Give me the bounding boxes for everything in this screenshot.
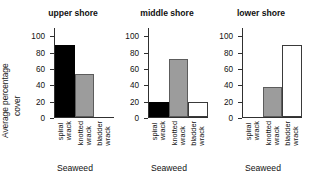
y-tick-label-60: 60 — [36, 64, 45, 73]
panel-title: upper shore — [26, 8, 120, 18]
bar-slot-spiral-wrack — [149, 28, 169, 117]
y-tick-60: 60 — [238, 69, 242, 70]
x-category-labels: spiral wrack knotted wrack bladder wrack — [149, 119, 208, 159]
x-category-line-2: wrack — [65, 121, 73, 140]
y-tick-label-20: 20 — [224, 97, 233, 106]
x-category-line-2: wrack — [253, 121, 261, 140]
x-category-line-2: wrack — [85, 121, 93, 145]
x-category-bladder-wrack: bladder wrack — [282, 119, 302, 159]
y-tick-20: 20 — [238, 102, 242, 103]
bar-group — [149, 28, 208, 117]
bar-slot-spiral-wrack — [55, 28, 75, 117]
y-tick-label-100: 100 — [125, 32, 139, 41]
y-tick-40: 40 — [238, 85, 242, 86]
bar-slot-knotted-wrack — [263, 28, 283, 117]
y-tick-label-0: 0 — [228, 114, 233, 123]
y-tick-label-0: 0 — [134, 114, 139, 123]
plot-area: 100 80 60 40 20 0 — [242, 28, 302, 118]
y-tick-label-40: 40 — [224, 81, 233, 90]
bar-slot-knotted-wrack — [75, 28, 95, 117]
y-tick-60: 60 — [50, 69, 54, 70]
y-tick-100: 100 — [238, 36, 242, 37]
x-category-labels: spiral wrack knotted wrack bladder wrack — [243, 119, 302, 159]
y-tick-label-80: 80 — [130, 48, 139, 57]
x-category-knotted-wrack: knotted wrack — [75, 119, 95, 159]
y-tick-label-60: 60 — [224, 64, 233, 73]
bar-slot-knotted-wrack — [169, 28, 189, 117]
y-tick-label-20: 20 — [36, 97, 45, 106]
x-category-line-2: wrack — [159, 121, 167, 140]
x-category-spiral-wrack: spiral wrack — [55, 119, 75, 159]
y-tick-label-100: 100 — [31, 32, 45, 41]
y-tick-100: 100 — [50, 36, 54, 37]
y-tick-40: 40 — [144, 85, 148, 86]
bar-spiral-wrack — [55, 45, 75, 116]
x-category-line-2: wrack — [104, 121, 112, 146]
bar-slot-spiral-wrack — [243, 28, 263, 117]
y-tick-60: 60 — [144, 69, 148, 70]
y-tick-label-100: 100 — [219, 32, 233, 41]
x-category-line-2: wrack — [179, 121, 187, 145]
panel-middle-shore: middle shore 100 80 60 40 20 0 — [120, 0, 214, 186]
x-axis-line — [242, 117, 302, 118]
y-tick-label-60: 60 — [130, 64, 139, 73]
bar-bladder-wrack — [282, 45, 302, 117]
x-category-spiral-wrack: spiral wrack — [243, 119, 263, 159]
x-category-labels: spiral wrack knotted wrack bladder wrack — [55, 119, 114, 159]
x-category-knotted-wrack: knotted wrack — [169, 119, 189, 159]
bar-slot-bladder-wrack — [282, 28, 302, 117]
panel-title: lower shore — [214, 8, 308, 18]
x-category-line-2: wrack — [273, 121, 281, 145]
bar-slot-bladder-wrack — [94, 28, 114, 117]
y-tick-20: 20 — [144, 102, 148, 103]
y-tick-20: 20 — [50, 102, 54, 103]
bar-group — [243, 28, 302, 117]
x-axis-label: Seaweed — [130, 163, 208, 173]
y-tick-0: 0 — [50, 118, 54, 119]
x-category-bladder-wrack: bladder wrack — [188, 119, 208, 159]
y-tick-80: 80 — [144, 53, 148, 54]
y-tick-80: 80 — [238, 53, 242, 54]
y-tick-100: 100 — [144, 36, 148, 37]
y-tick-80: 80 — [50, 53, 54, 54]
y-tick-label-40: 40 — [130, 81, 139, 90]
panel-lower-shore: lower shore 100 80 60 40 20 0 — [214, 0, 308, 186]
y-axis-label-line-2: cover — [12, 96, 22, 116]
bar-knotted-wrack — [263, 87, 283, 116]
y-tick-40: 40 — [50, 85, 54, 86]
plot-area: 100 80 60 40 20 0 — [148, 28, 208, 118]
plot-area: 100 80 60 40 20 0 — [54, 28, 114, 118]
bar-bladder-wrack — [188, 102, 208, 117]
bar-knotted-wrack — [169, 59, 189, 117]
x-category-line-2: wrack — [292, 121, 300, 146]
panel-title: middle shore — [120, 8, 214, 18]
y-tick-0: 0 — [144, 118, 148, 119]
x-axis-line — [148, 117, 208, 118]
figure: Average percentage cover upper shore 100… — [0, 0, 312, 186]
x-category-knotted-wrack: knotted wrack — [263, 119, 283, 159]
x-category-bladder-wrack: bladder wrack — [94, 119, 114, 159]
y-tick-label-80: 80 — [36, 48, 45, 57]
y-axis-label-line-1: Average percentage — [0, 63, 10, 138]
y-tick-label-0: 0 — [40, 114, 45, 123]
y-tick-label-40: 40 — [36, 81, 45, 90]
panel-upper-shore: upper shore 100 80 60 40 20 0 — [26, 0, 120, 186]
x-axis-label: Seaweed — [224, 163, 302, 173]
x-axis-label: Seaweed — [36, 163, 114, 173]
x-category-spiral-wrack: spiral wrack — [149, 119, 169, 159]
bar-knotted-wrack — [75, 74, 95, 117]
y-tick-0: 0 — [238, 118, 242, 119]
bar-slot-bladder-wrack — [188, 28, 208, 117]
bar-group — [55, 28, 114, 117]
x-axis-line — [54, 117, 114, 118]
bar-spiral-wrack — [149, 102, 169, 116]
x-category-line-2: wrack — [198, 121, 206, 146]
y-tick-label-20: 20 — [130, 97, 139, 106]
y-tick-label-80: 80 — [224, 48, 233, 57]
